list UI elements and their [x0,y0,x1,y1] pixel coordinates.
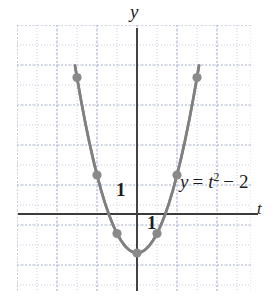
data-point [112,229,121,238]
equation-lhs: y [180,171,188,192]
data-point [92,170,101,179]
equation-label: y=t2−2 [180,172,249,191]
graph-figure: y t 1 1 y=t2−2 [0,0,278,299]
data-point [72,73,81,82]
vertex-point [132,248,141,257]
parabola-plot [0,0,278,299]
t-axis-label: t [257,200,262,217]
y-axis-label: y [130,2,138,21]
data-point [192,73,201,82]
equation-minus: − [223,171,234,192]
y-axis-unit-label: 1 [116,180,126,199]
equation-constant: 2 [239,171,249,192]
equation-exponent: 2 [213,171,219,184]
equation-equals: = [192,171,203,192]
t-axis-unit-label: 1 [147,213,157,232]
